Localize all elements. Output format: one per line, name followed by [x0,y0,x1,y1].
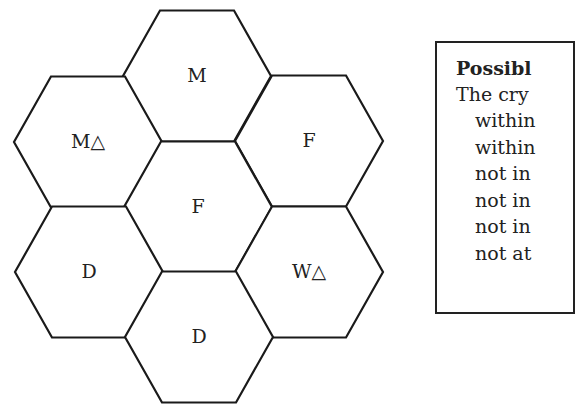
clue-line: within [475,109,536,131]
clue-line: not in [475,162,531,184]
clue-line: The cry [456,83,529,105]
hex-label: W△ [292,260,327,282]
hex-label: D [81,260,96,282]
hex-map: MM△FFDW△D [0,0,430,407]
clue-line: not at [475,242,531,264]
clue-box: Possibl The cry within within not in not… [435,41,575,314]
hex-label: M [187,64,206,86]
hex-label: F [302,129,315,151]
hex-label: D [191,325,206,347]
hex-label: F [191,195,204,217]
clue-title: Possibl [456,57,532,79]
clue-line: not in [475,189,531,211]
clue-line: not in [475,215,531,237]
hex-label: M△ [71,130,105,152]
clue-line: within [475,136,536,158]
